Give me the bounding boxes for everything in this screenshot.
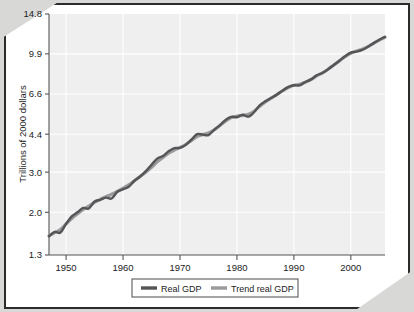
legend-label-real-gdp: Real GDP (161, 284, 202, 294)
x-tick-label: 1990 (283, 262, 304, 273)
figure-page: 14.89.96.64.43.02.01.3 19501960197019801… (0, 0, 414, 312)
x-tick-labels: 195019601970198019902000 (56, 262, 362, 273)
y-tick-label: 4.4 (29, 129, 42, 140)
x-tick-label: 2000 (340, 262, 361, 273)
legend-label-trend-real-gdp: Trend real GDP (231, 284, 294, 294)
chart-svg: 14.89.96.64.43.02.01.3 19501960197019801… (0, 0, 414, 312)
y-axis-ticks (45, 14, 49, 255)
x-tick-label: 1950 (56, 262, 77, 273)
x-tick-label: 1980 (226, 262, 247, 273)
chart-legend: Real GDP Trend real GDP (132, 279, 298, 297)
x-axis-ticks (66, 255, 351, 260)
y-tick-label: 14.8 (24, 8, 43, 19)
x-tick-label: 1960 (112, 262, 133, 273)
y-tick-label: 9.9 (29, 48, 42, 59)
y-tick-label: 6.6 (29, 88, 42, 99)
y-axis-title: Trillions of 2000 dollars (17, 85, 28, 183)
y-tick-label: 3.0 (29, 167, 42, 178)
y-tick-label: 2.0 (29, 207, 42, 218)
gdp-line-chart: 14.89.96.64.43.02.01.3 19501960197019801… (0, 0, 414, 312)
y-tick-label: 1.3 (29, 249, 42, 260)
x-tick-label: 1970 (169, 262, 190, 273)
